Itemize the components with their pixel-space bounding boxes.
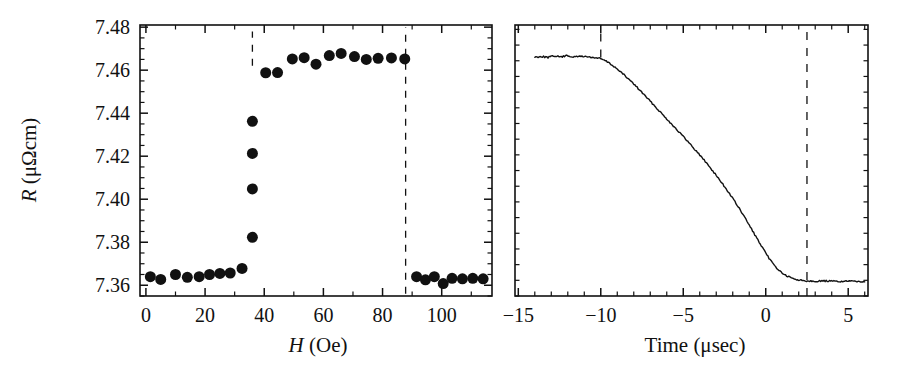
y-tick-label: 7.48: [95, 16, 130, 38]
x-tick-label: 5: [843, 304, 853, 326]
data-point: [247, 148, 258, 159]
right-x-axis-title: Time (μsec): [645, 333, 746, 357]
data-point: [204, 269, 215, 280]
svg-text:H (Oe): H (Oe): [288, 333, 348, 357]
y-tick-label: 7.38: [95, 231, 130, 253]
data-point: [457, 273, 468, 284]
left-x-axis-title: H (Oe): [288, 333, 348, 357]
right-tick-marks: [515, 25, 868, 296]
x-tick-label: 100: [427, 304, 457, 326]
trace-line: [535, 55, 865, 282]
x-axis-title-units: (Oe): [304, 333, 348, 357]
x-tick-label: 60: [313, 304, 333, 326]
x-tick-label: 0: [141, 304, 151, 326]
data-point: [373, 53, 384, 64]
data-point: [155, 274, 166, 285]
data-point: [478, 273, 489, 284]
data-point: [386, 52, 397, 63]
data-point: [429, 271, 440, 282]
right-plot-frame: [515, 25, 868, 296]
y-axis-title-units: (μΩcm): [17, 118, 41, 190]
right-plot-svg: Time (μsec) −15−10−505: [500, 0, 904, 365]
x-tick-label: 40: [254, 304, 274, 326]
data-point: [247, 183, 258, 194]
left-y-tick-labels: 7.367.387.407.427.447.467.48: [95, 16, 130, 296]
left-annotation-lines: [252, 27, 405, 294]
panel-right-time-trace: Time (μsec) −15−10−505: [500, 0, 904, 365]
right-trace-curve: [535, 55, 865, 282]
x-tick-label: −5: [673, 304, 694, 326]
data-point: [214, 268, 225, 279]
y-tick-label: 7.36: [95, 274, 130, 296]
data-point: [194, 271, 205, 282]
x-tick-label: 80: [373, 304, 393, 326]
data-point: [311, 59, 322, 70]
data-point: [349, 51, 360, 62]
x-tick-label: 0: [761, 304, 771, 326]
data-point: [447, 273, 458, 284]
data-point: [182, 272, 193, 283]
y-tick-label: 7.40: [95, 188, 130, 210]
figure-container: R (μΩcm) H (Oe) 7.367.387.407.427.447.46…: [0, 0, 904, 365]
data-point: [467, 273, 478, 284]
data-point: [260, 67, 271, 78]
data-point: [324, 50, 335, 61]
data-point: [272, 67, 283, 78]
svg-text:R (μΩcm): R (μΩcm): [17, 118, 41, 204]
left-data-points: [145, 48, 489, 289]
data-point: [237, 263, 248, 274]
y-tick-label: 7.42: [95, 145, 130, 167]
data-point: [361, 54, 372, 65]
data-point: [287, 53, 298, 64]
data-point: [399, 53, 410, 64]
data-point: [299, 52, 310, 63]
left-x-tick-labels: 020406080100: [141, 304, 457, 326]
x-tick-label: −15: [503, 304, 534, 326]
right-x-tick-labels: −15−10−505: [503, 304, 854, 326]
x-tick-label: −10: [585, 304, 616, 326]
y-axis-title-symbol: R: [17, 189, 41, 203]
data-point: [170, 269, 181, 280]
y-tick-label: 7.46: [95, 59, 130, 81]
left-plot-svg: R (μΩcm) H (Oe) 7.367.387.407.427.447.46…: [0, 0, 500, 365]
left-y-axis-title: R (μΩcm): [17, 118, 41, 204]
data-point: [247, 232, 258, 243]
data-point: [145, 271, 156, 282]
data-point: [336, 48, 347, 59]
x-axis-title-label: Time (μsec): [645, 333, 746, 357]
data-point: [247, 116, 258, 127]
y-tick-label: 7.44: [95, 102, 130, 124]
data-point: [225, 267, 236, 278]
x-tick-label: 20: [195, 304, 215, 326]
panel-left-resistance-vs-field: R (μΩcm) H (Oe) 7.367.387.407.427.447.46…: [0, 0, 500, 365]
